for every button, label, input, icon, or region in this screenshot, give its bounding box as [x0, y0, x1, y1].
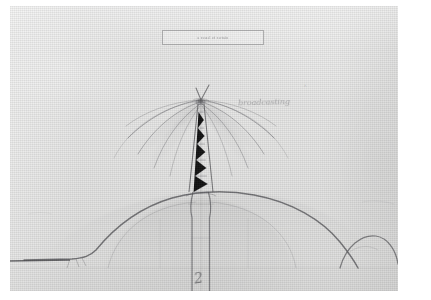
title-box-label: a vessel of certain: [198, 35, 229, 40]
page-canvas: a vessel of certain ^ broadcasting 2 KAT…: [0, 0, 431, 300]
artwork-plate: a vessel of certain ^ broadcasting 2: [10, 6, 398, 291]
mound-tone: [24, 192, 370, 268]
plate-number: 2: [193, 269, 204, 286]
annotation-label: broadcasting: [238, 96, 290, 107]
annotation-caret: ^: [304, 84, 307, 90]
annotation: ^ broadcasting: [238, 89, 342, 108]
drawing-svg: [10, 6, 398, 291]
title-box: a vessel of certain: [162, 30, 264, 45]
